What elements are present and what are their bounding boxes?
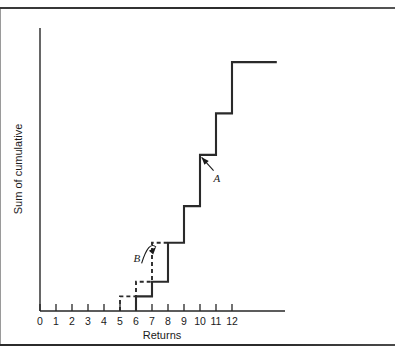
x-tick-label-2: 2: [69, 315, 75, 327]
x-tick-label-7: 7: [149, 315, 155, 327]
x-tick-label-10: 10: [194, 315, 206, 327]
x-axis-tick-labels: 0123456789101112: [37, 315, 238, 327]
series-b-dashed-step-line: [120, 243, 167, 311]
x-tick-label-4: 4: [101, 315, 107, 327]
x-tick-label-9: 9: [181, 315, 187, 327]
y-axis-title: Sum of cumulative: [12, 124, 24, 214]
x-tick-label-8: 8: [165, 315, 171, 327]
annotation-arrow-B: [142, 245, 156, 263]
x-tick-label-6: 6: [133, 315, 139, 327]
x-tick-label-12: 12: [226, 315, 238, 327]
x-tick-label-3: 3: [85, 315, 91, 327]
annotation-label-B: B: [133, 252, 140, 264]
x-tick-label-11: 11: [211, 315, 222, 327]
data-series: [120, 62, 277, 311]
axes: [40, 28, 285, 311]
chart-figure: 0123456789101112 AB Returns Sum of cumul…: [0, 9, 395, 344]
annotations: AB: [133, 157, 220, 264]
x-tick-label-0: 0: [37, 315, 43, 327]
x-tick-label-5: 5: [117, 315, 123, 327]
x-tick-label-1: 1: [53, 315, 59, 327]
series-a-solid-step-line: [136, 62, 277, 311]
figure-page: 0123456789101112 AB Returns Sum of cumul…: [0, 0, 395, 356]
bottom-horizontal-rule: [0, 344, 395, 346]
cumulative-step-chart: 0123456789101112 AB Returns Sum of cumul…: [0, 9, 395, 344]
annotation-label-A: A: [212, 172, 220, 184]
x-axis-title: Returns: [143, 329, 182, 341]
